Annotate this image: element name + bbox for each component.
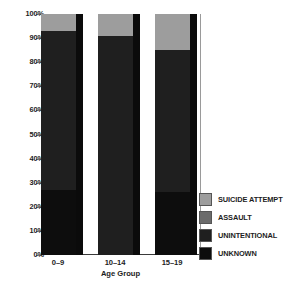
legend-swatch: [199, 211, 212, 224]
bar-shadow: [190, 14, 197, 255]
y-axis-tick-label: 30%: [10, 179, 44, 187]
x-axis-title: Age Group: [41, 269, 200, 278]
bar-stack: [41, 14, 76, 255]
x-axis-tick-label: 0–9: [28, 258, 88, 267]
bar-column: [155, 14, 197, 255]
y-axis-tick-label: 10%: [10, 227, 44, 235]
legend-label: UNKNOWN: [218, 249, 257, 258]
bar-segment-unintentional: [98, 36, 133, 255]
legend-item[interactable]: UNINTENTIONAL: [199, 226, 283, 244]
legend-label: UNINTENTIONAL: [218, 231, 277, 240]
bar-segment-unintentional: [41, 31, 76, 190]
bar-segment-unknown: [155, 192, 190, 255]
legend-item[interactable]: ASSAULT: [199, 208, 283, 226]
bar-shadow: [76, 14, 83, 255]
legend-swatch: [199, 229, 212, 242]
legend-swatch: [199, 193, 212, 206]
legend-item[interactable]: UNKNOWN: [199, 244, 283, 262]
bar-stack: [155, 14, 190, 255]
legend-item[interactable]: SUICIDE ATTEMPT: [199, 190, 283, 208]
bar-stack: [98, 14, 133, 255]
legend-label: SUICIDE ATTEMPT: [218, 195, 283, 204]
bar-segment-suicide-attempt: [41, 14, 76, 31]
bar-segment-unknown: [41, 190, 76, 255]
bar-segment-suicide-attempt: [155, 14, 190, 50]
y-axis-tick-label: 60%: [10, 106, 44, 114]
stacked-bar-chart: 0%10%20%30%40%50%60%70%80%90%100% 0–910–…: [0, 0, 296, 288]
y-axis-tick-label: 40%: [10, 155, 44, 163]
bar-column: [41, 14, 83, 255]
y-axis-tick-label: 70%: [10, 82, 44, 90]
y-axis-tick-label: 50%: [10, 131, 44, 139]
bar-column: [98, 14, 140, 255]
y-axis-tick-label: 100%: [10, 10, 44, 18]
x-axis-tick-label: 10–14: [85, 258, 145, 267]
y-axis-tick-label: 90%: [10, 34, 44, 42]
y-axis-tick-label: 80%: [10, 58, 44, 66]
bar-shadow: [133, 14, 140, 255]
bar-segment-unintentional: [155, 50, 190, 192]
x-axis-tick-label: 15–19: [142, 258, 202, 267]
legend: SUICIDE ATTEMPTASSAULTUNINTENTIONALUNKNO…: [199, 190, 283, 262]
legend-swatch: [199, 247, 212, 260]
legend-label: ASSAULT: [218, 213, 252, 222]
y-axis-tick-label: 20%: [10, 203, 44, 211]
bar-segment-suicide-attempt: [98, 14, 133, 36]
